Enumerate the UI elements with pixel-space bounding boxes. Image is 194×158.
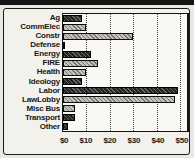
bar-labor: [63, 87, 178, 94]
x-tick-label-50: $50: [175, 137, 188, 145]
x-tick-label-10: $10: [80, 137, 93, 145]
category-label-labor: Labor: [6, 86, 60, 95]
bar-constr: [63, 33, 133, 40]
bar-row: [63, 32, 187, 41]
bar-commelec: [63, 24, 86, 31]
category-axis: AgCommElecConstrDefenseEnergyFIREHealthI…: [6, 13, 60, 132]
bar-energy: [63, 51, 91, 58]
bar-health: [63, 69, 86, 76]
plot-area: [62, 13, 189, 132]
bar-lawlobby: [63, 96, 175, 103]
chart-frame: AgCommElecConstrDefenseEnergyFIREHealthI…: [3, 8, 190, 155]
x-tick-label-40: $40: [151, 137, 164, 145]
x-tick-label-0: $0: [60, 137, 69, 145]
chart-screenshot: { "chart_data": { "type": "bar", "orient…: [0, 0, 194, 158]
bar-row: [63, 14, 187, 23]
x-tick-label-20: $20: [104, 137, 117, 145]
bar-row: [63, 95, 187, 104]
bar-row: [63, 68, 187, 77]
bar-row: [63, 104, 187, 113]
bar-row: [63, 113, 187, 122]
bar-rows: [63, 14, 187, 131]
bar-row: [63, 77, 187, 86]
bar-defense: [63, 42, 65, 49]
bar-ideology: [63, 78, 82, 85]
category-label-ideology: Ideology: [6, 77, 60, 86]
top-divider-band: [0, 0, 194, 5]
bar-row: [63, 122, 187, 131]
category-label-ag: Ag: [6, 13, 60, 22]
bar-row: [63, 50, 187, 59]
category-label-commelec: CommElec: [6, 22, 60, 31]
x-axis: $0$10$20$30$40$50: [62, 136, 189, 149]
bar-ag: [63, 15, 82, 22]
bar-transport: [63, 114, 75, 121]
x-tick-label-30: $30: [128, 137, 141, 145]
category-label-other: Other: [6, 123, 60, 132]
bar-misc-bus: [63, 105, 75, 112]
bar-row: [63, 59, 187, 68]
category-label-health: Health: [6, 68, 60, 77]
bar-row: [63, 23, 187, 32]
bar-row: [63, 86, 187, 95]
bar-row: [63, 41, 187, 50]
bar-fire: [63, 60, 98, 67]
bar-other: [63, 123, 68, 130]
